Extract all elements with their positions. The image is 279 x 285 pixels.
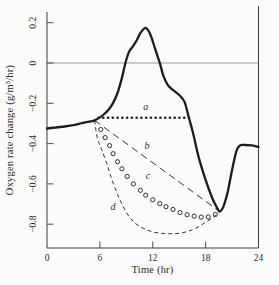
curve-c-circle — [151, 198, 155, 202]
curve-c-circle — [192, 214, 196, 218]
curve-a-dot — [102, 117, 105, 120]
x-axis-title: Time (hr) — [132, 264, 174, 276]
x-tick-label: 6 — [98, 253, 103, 263]
axes-layer: 061218240.20−0.2−0.4−0.6−0.8 — [28, 6, 264, 263]
curve-c-circle — [138, 188, 142, 192]
curve-c-circles — [99, 127, 218, 219]
curve-a-dot — [164, 117, 167, 120]
curve-label-a: a — [143, 101, 148, 112]
curve-label-d: d — [111, 201, 117, 212]
curve-c-circle — [185, 213, 189, 217]
x-tick-label: 12 — [148, 253, 158, 263]
curve-a-dot — [126, 117, 129, 120]
curve-c-circle — [111, 152, 115, 156]
y-tick-label: −0.4 — [28, 135, 38, 152]
curve-c-circle — [158, 202, 162, 206]
curve-a-dot — [112, 117, 115, 120]
curve-a-dot — [173, 117, 176, 120]
x-tick-label: 24 — [254, 253, 264, 263]
curve-c-circle — [199, 215, 203, 219]
curve-label-c: c — [146, 170, 151, 181]
curve-c-circle — [178, 210, 182, 214]
curve-a-dot — [121, 117, 124, 120]
y-tick-label: −0.6 — [28, 175, 38, 192]
curve-a-dot — [140, 117, 143, 120]
curve-a-dot — [178, 117, 181, 120]
curve-label-b: b — [145, 140, 150, 151]
curve-a-dot — [135, 117, 138, 120]
curve-c-circle — [99, 127, 103, 131]
curve-a-dot — [131, 117, 134, 120]
curve-c-circle — [115, 160, 119, 164]
curve-a-dot — [169, 117, 172, 120]
curve-a-dot — [150, 117, 153, 120]
y-tick-label: 0 — [28, 60, 38, 65]
curve-c-circle — [103, 135, 107, 139]
y-tick-label: 0.2 — [28, 17, 38, 29]
page: { "figure": { "background": "#fcfcfa", "… — [0, 0, 279, 285]
curve-a-dot — [116, 117, 119, 120]
curve-a-dot — [188, 117, 191, 120]
curve-c-circle — [164, 205, 168, 209]
curve-a-dots — [97, 117, 190, 120]
y-tick-label: −0.2 — [28, 94, 38, 111]
curve-c-circle — [125, 174, 129, 178]
curve-d-path — [95, 120, 220, 233]
measured-curve-path — [47, 28, 259, 212]
curve-a-dot — [107, 117, 110, 120]
curve-c-circle — [171, 207, 175, 211]
curve-c-circle — [107, 144, 111, 148]
curve-c-circle — [144, 193, 148, 197]
curve-c-circle — [131, 182, 135, 186]
x-tick-label: 0 — [45, 253, 50, 263]
figure: 061218240.20−0.2−0.4−0.6−0.8 abcd Time (… — [0, 0, 279, 285]
series-layer — [47, 28, 259, 234]
y-axis-title: Oxygen rate change (g/m³/hr) — [4, 65, 16, 196]
curve-a-dot — [154, 117, 157, 120]
x-tick-label: 18 — [201, 253, 211, 263]
curve-a-dot — [145, 117, 148, 120]
y-tick-label: −0.8 — [28, 215, 38, 232]
curve-c-circle — [206, 215, 210, 219]
curve-a-dot — [97, 117, 100, 120]
curve-a-dot — [183, 117, 186, 120]
curve-a-dot — [159, 117, 162, 120]
curve-c-circle — [120, 167, 124, 171]
oxygen-rate-chart: 061218240.20−0.2−0.4−0.6−0.8 abcd Time (… — [0, 0, 279, 285]
